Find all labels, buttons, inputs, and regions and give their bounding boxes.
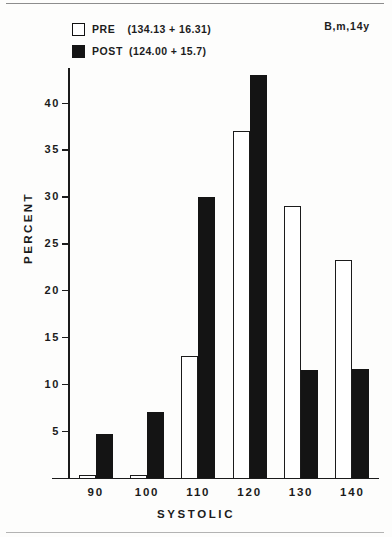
bar-post-120 — [250, 75, 267, 478]
x-tick-label-130: 130 — [275, 486, 326, 498]
bar-group-140 — [327, 68, 378, 478]
bar-post-100 — [147, 412, 164, 478]
x-axis-title: SYSTOLIC — [0, 508, 392, 520]
bar-post-90 — [96, 434, 113, 478]
y-tick-label-35: 35 — [45, 143, 60, 155]
y-tick-25 — [62, 243, 69, 244]
bar-group-130 — [275, 68, 326, 478]
x-tick-label-140: 140 — [327, 486, 378, 498]
plot-area: 510152025303540 PERCENT 9010011012013014… — [0, 0, 392, 537]
y-tick-15 — [62, 337, 69, 338]
y-tick-label-20: 20 — [45, 284, 60, 296]
y-axis-title: PERCENT — [22, 158, 34, 298]
x-tick-label-90: 90 — [70, 486, 121, 498]
y-tick-35 — [62, 149, 69, 150]
y-tick-label-5: 5 — [52, 425, 60, 437]
bar-post-140 — [352, 369, 369, 478]
y-tick-label-15: 15 — [45, 331, 60, 343]
bar-groups — [70, 68, 378, 478]
y-tick-20 — [62, 290, 69, 291]
x-tick-label-120: 120 — [224, 486, 275, 498]
y-tick-5 — [62, 431, 69, 432]
bar-pre-110 — [181, 356, 198, 478]
x-tick-label-110: 110 — [173, 486, 224, 498]
bar-pre-130 — [284, 206, 301, 478]
bar-group-100 — [121, 68, 172, 478]
bar-post-130 — [301, 370, 318, 478]
y-tick-30 — [62, 196, 69, 197]
y-tick-10 — [62, 384, 69, 385]
bar-group-110 — [173, 68, 224, 478]
bar-group-120 — [224, 68, 275, 478]
y-tick-40 — [62, 103, 69, 104]
figure-panel: PRE (134.13 + 16.31) POST (124.00 + 15.7… — [0, 0, 392, 537]
bar-post-110 — [198, 197, 215, 478]
y-tick-label-10: 10 — [45, 378, 60, 390]
y-tick-label-30: 30 — [45, 190, 60, 202]
bar-pre-100 — [130, 475, 147, 478]
x-tick-label-100: 100 — [121, 486, 172, 498]
bar-group-90 — [70, 68, 121, 478]
bar-pre-140 — [335, 260, 352, 478]
y-tick-label-40: 40 — [45, 97, 60, 109]
bar-pre-120 — [233, 131, 250, 478]
y-tick-label-25: 25 — [45, 237, 60, 249]
bar-pre-90 — [79, 475, 96, 478]
